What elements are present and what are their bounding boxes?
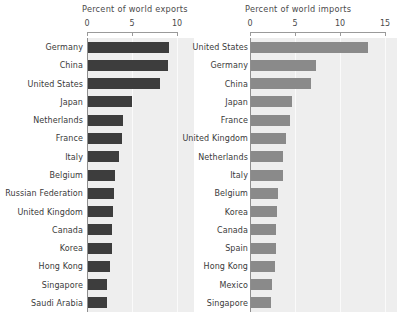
- axis-tick: [132, 32, 133, 36]
- bar: [251, 115, 290, 126]
- category-label: United States: [193, 43, 248, 52]
- bar: [88, 151, 119, 162]
- category-label: Spain: [225, 244, 248, 253]
- bar: [88, 78, 160, 89]
- bar: [88, 224, 112, 235]
- bar: [88, 170, 115, 181]
- axis-tick-label: 5: [129, 19, 134, 28]
- axis-tick-label: 10: [335, 19, 345, 28]
- category-label: Korea: [225, 207, 248, 216]
- bar: [251, 206, 277, 217]
- figure: Percent of world exports 0510 GermanyChi…: [0, 0, 401, 324]
- bar: [251, 297, 271, 308]
- category-label: Belgium: [215, 189, 249, 198]
- bar: [251, 133, 286, 144]
- category-label: Japan: [60, 97, 83, 106]
- axis-tick: [295, 32, 296, 36]
- axis-tick: [177, 32, 178, 36]
- exports-x-axis: 0510: [87, 20, 177, 36]
- category-label: Germany: [46, 43, 83, 52]
- bar: [251, 170, 283, 181]
- category-label: Germany: [211, 61, 248, 70]
- bar: [88, 42, 169, 53]
- bar: [251, 188, 278, 199]
- bar: [88, 206, 113, 217]
- category-label: Netherlands: [198, 152, 248, 161]
- category-label: Japan: [225, 97, 248, 106]
- imports-chart-title: Percent of world imports: [245, 4, 351, 14]
- bar: [88, 133, 122, 144]
- axis-tick-label: 10: [172, 19, 182, 28]
- bar: [88, 243, 112, 254]
- category-label: Hong Kong: [39, 262, 83, 271]
- bar: [88, 188, 114, 199]
- bar: [251, 261, 275, 272]
- category-label: Netherlands: [33, 116, 83, 125]
- axis-tick-label: 0: [84, 19, 89, 28]
- category-label: Singapore: [42, 280, 83, 289]
- bar: [251, 96, 292, 107]
- gridline: [177, 38, 178, 312]
- bar: [251, 78, 311, 89]
- bar: [251, 279, 272, 290]
- category-label: Korea: [60, 244, 83, 253]
- category-label: Mexico: [219, 280, 248, 289]
- imports-chart-panel: Percent of world imports 051015 United S…: [200, 0, 401, 324]
- axis-tick-label: 5: [292, 19, 297, 28]
- bar: [88, 261, 110, 272]
- category-label: France: [221, 116, 248, 125]
- axis-tick: [385, 32, 386, 36]
- exports-plot-area: [87, 38, 194, 312]
- exports-chart-panel: Percent of world exports 0510 GermanyChi…: [0, 0, 200, 324]
- bar: [251, 151, 283, 162]
- bar: [251, 224, 276, 235]
- category-label: United Kingdom: [182, 134, 248, 143]
- axis-tick: [340, 32, 341, 36]
- bar: [251, 42, 368, 53]
- bar: [251, 60, 316, 71]
- imports-x-axis: 051015: [250, 20, 385, 36]
- exports-chart-title: Percent of world exports: [82, 4, 188, 14]
- bar: [88, 60, 168, 71]
- imports-plot-area: [250, 38, 397, 312]
- bar: [88, 297, 107, 308]
- bar: [251, 243, 276, 254]
- bar: [88, 115, 123, 126]
- gridline: [340, 38, 341, 312]
- category-label: Italy: [230, 171, 248, 180]
- bar: [88, 279, 107, 290]
- category-label: China: [225, 79, 248, 88]
- category-label: China: [60, 61, 83, 70]
- category-label: Saudi Arabia: [31, 298, 83, 307]
- axis-tick: [87, 32, 88, 36]
- axis-line: [250, 32, 385, 33]
- category-label: Canada: [52, 225, 83, 234]
- category-label: France: [56, 134, 83, 143]
- category-label: United States: [28, 79, 83, 88]
- category-label: Italy: [65, 152, 83, 161]
- category-label: Singapore: [207, 298, 248, 307]
- category-label: Canada: [217, 225, 248, 234]
- axis-tick-label: 15: [380, 19, 390, 28]
- category-label: Russian Federation: [5, 189, 83, 198]
- category-label: Belgium: [50, 171, 84, 180]
- axis-tick: [250, 32, 251, 36]
- gridline: [385, 38, 386, 312]
- category-label: United Kingdom: [17, 207, 83, 216]
- bar: [88, 96, 132, 107]
- category-label: Hong Kong: [204, 262, 248, 271]
- axis-tick-label: 0: [247, 19, 252, 28]
